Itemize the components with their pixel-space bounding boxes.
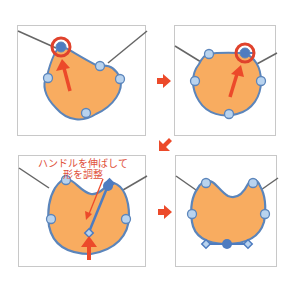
- point-icon[interactable]: [116, 75, 125, 84]
- panel-step-4: [175, 155, 277, 267]
- wire-left: [18, 31, 56, 48]
- wire-right: [108, 31, 147, 63]
- point-icon[interactable]: [44, 74, 53, 83]
- wire-left: [176, 176, 196, 190]
- instruction-caption: ハンドルを伸ばして 形を調整: [33, 158, 133, 180]
- point-icon[interactable]: [96, 62, 105, 71]
- point-icon[interactable]: [122, 215, 131, 224]
- point-icon[interactable]: [225, 110, 234, 119]
- point-icon[interactable]: [249, 179, 258, 188]
- selected-point-icon[interactable]: [240, 48, 250, 58]
- point-icon[interactable]: [82, 109, 91, 118]
- point-icon[interactable]: [202, 179, 211, 188]
- caption-line-2: 形を調整: [33, 169, 133, 180]
- selected-point-icon[interactable]: [56, 42, 66, 52]
- point-icon[interactable]: [257, 77, 266, 86]
- flow-arrow-down-left-icon: [157, 137, 173, 153]
- step-1-illustration: [18, 26, 147, 137]
- wire-right: [255, 53, 277, 65]
- selected-point-icon[interactable]: [222, 239, 232, 249]
- selected-point-icon[interactable]: [103, 181, 113, 191]
- shape: [191, 180, 265, 244]
- flow-arrow-right-icon: [157, 74, 171, 88]
- step-4-illustration: [176, 156, 278, 268]
- panel-step-3: ハンドルを伸ばして 形を調整: [18, 155, 146, 267]
- panel-step-1: [17, 25, 146, 136]
- point-icon[interactable]: [188, 210, 197, 219]
- flow-arrow-right-icon: [158, 205, 172, 219]
- shape: [44, 46, 120, 119]
- point-icon[interactable]: [47, 215, 56, 224]
- panel-step-2: [174, 25, 276, 136]
- shape: [193, 53, 261, 116]
- wire-left: [175, 46, 201, 62]
- step-2-illustration: [175, 26, 277, 137]
- point-icon[interactable]: [191, 77, 200, 86]
- point-icon[interactable]: [261, 210, 270, 219]
- caption-line-1: ハンドルを伸ばして: [38, 158, 128, 169]
- point-icon[interactable]: [205, 50, 214, 59]
